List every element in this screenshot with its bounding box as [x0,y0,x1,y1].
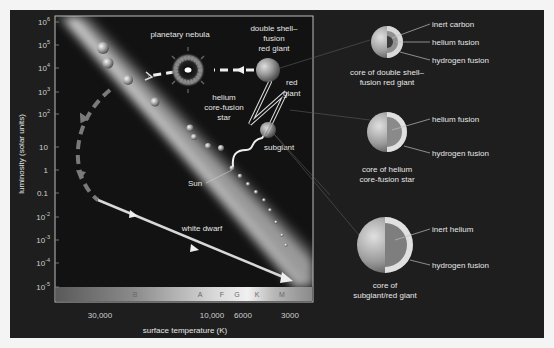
svg-text:30,000: 30,000 [88,311,113,320]
svg-text:103: 103 [38,86,50,97]
core3-caption-2: subgiant/red giant [353,291,417,300]
x-axis-title: surface temperature (K) [143,326,228,335]
core1-layer-helium-fusion: helium fusion [432,38,479,47]
label-sun: Sun [188,179,202,188]
svg-text:10: 10 [39,143,48,152]
red-giant-star [256,58,280,82]
label-double-shell-3: red giant [258,44,290,53]
core-helium-fusion: helium fusion hydrogen fusion core of he… [359,112,489,184]
y-axis-labels: 106 105 104 103 102 10 1 0.1 10-2 10-3 1… [36,16,50,292]
spectral-b: B [133,291,138,298]
svg-text:10-3: 10-3 [36,234,50,245]
core2-caption-1: core of helium [362,165,413,174]
label-subgiant: subgiant [264,143,295,152]
core1-caption-1: core of double shell– [350,68,424,77]
core3-layer-hydrogen-fusion: hydrogen fusion [432,261,489,270]
svg-text:10-2: 10-2 [36,211,50,222]
label-helium-1: helium [212,93,236,102]
spectral-o: O [74,291,80,298]
label-red-giant-1: red [286,78,298,87]
core-subgiant-red-giant: inert helium hydrogen fusion core of sub… [353,217,489,300]
svg-text:1: 1 [44,166,49,175]
y-axis-title: luminosity (solar units) [17,114,26,194]
label-double-shell-1: double shell– [250,24,298,33]
svg-text:6000: 6000 [234,311,252,320]
x-axis-labels: 30,000 10,000 6000 3000 [88,311,300,320]
label-helium-3: star [217,113,231,122]
subgiant-star [260,122,276,138]
core2-caption-2: core-fusion star [359,175,414,184]
core3-layer-inert-helium: inert helium [432,225,474,234]
core1-caption-2: fusion red giant [360,78,415,87]
svg-text:106: 106 [38,16,50,27]
spectral-a: A [198,291,203,298]
svg-text:104: 104 [38,62,50,73]
core2-layer-helium-fusion: helium fusion [432,115,479,124]
svg-text:10-5: 10-5 [36,281,50,292]
core-double-shell: inert carbon helium fusion hydrogen fusi… [350,20,489,87]
label-white-dwarf: white dwarf [181,224,223,233]
spectral-class-bar [56,287,312,301]
spectral-k: K [255,291,260,298]
svg-text:10-4: 10-4 [36,257,50,268]
spectral-f: F [220,291,224,298]
core2-layer-hydrogen-fusion: hydrogen fusion [432,149,489,158]
svg-text:3000: 3000 [281,311,299,320]
label-double-shell-2: fusion [263,34,284,43]
svg-text:105: 105 [38,39,50,50]
hr-diagram: O B A F G K M 106 105 104 103 102 10 1 0… [0,0,554,348]
spectral-m: M [279,291,285,298]
core1-layer-hydrogen-fusion: hydrogen fusion [432,56,489,65]
label-helium-2: core-fusion [204,103,244,112]
label-planetary-nebula: planetary nebula [150,30,210,39]
core3-caption-1: core of [373,281,398,290]
svg-text:102: 102 [38,108,50,119]
core1-layer-inert-carbon: inert carbon [432,20,474,29]
svg-text:0.1: 0.1 [37,189,49,198]
spectral-g: G [234,291,239,298]
label-red-giant-2: giant [283,89,301,98]
svg-text:10,000: 10,000 [200,311,225,320]
